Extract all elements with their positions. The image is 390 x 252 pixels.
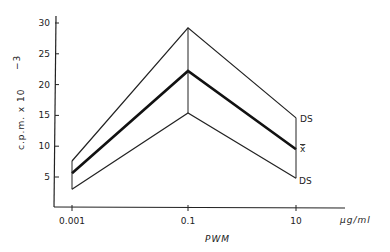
y-axis-title-exponent: −3 bbox=[12, 55, 22, 70]
upper-sd-label: DS bbox=[300, 114, 313, 124]
x-tick-label: 0.001 bbox=[59, 216, 85, 226]
y-tick-label: 5 bbox=[44, 172, 50, 182]
mean-label: x̄ bbox=[300, 144, 306, 154]
y-tick-label: 20 bbox=[39, 80, 51, 90]
x-tick-label: 0.1 bbox=[181, 216, 195, 226]
y-tick-label: 10 bbox=[39, 141, 51, 151]
x-axis-title: PWM bbox=[205, 234, 230, 244]
y-axis-title-group: c.p.m. x 10 −3 bbox=[12, 55, 26, 150]
x-axis bbox=[54, 207, 345, 208]
y-tick-label: 25 bbox=[39, 49, 50, 59]
y-tick-label: 30 bbox=[39, 18, 51, 28]
x-axis-unit: µg/ml bbox=[339, 215, 371, 225]
y-axis-title: c.p.m. x 10 bbox=[16, 88, 26, 150]
pwm-response-chart: 51015202530 0.0010.110 DS x̄ DS PWM µg/m… bbox=[0, 0, 390, 252]
series-line bbox=[72, 28, 296, 161]
x-tick-label: 10 bbox=[290, 216, 302, 226]
series-lines bbox=[72, 28, 296, 189]
sd-connectors bbox=[72, 28, 296, 189]
y-tick-label: 15 bbox=[39, 110, 50, 120]
y-axis bbox=[54, 16, 56, 207]
lower-sd-label: DS bbox=[299, 176, 312, 186]
